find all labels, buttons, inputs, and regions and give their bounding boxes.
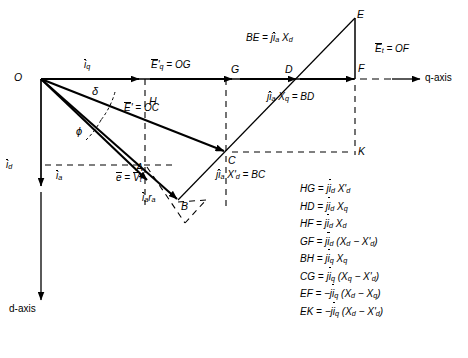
q-axis-label: q-axis [425, 73, 452, 83]
point-label-O: O [14, 72, 22, 83]
point-label-E: E [357, 9, 364, 20]
BE-label: BE = jia Xd [246, 33, 293, 43]
iq-vector-label: iq [84, 60, 90, 70]
equation-HF: HF = jid Xd [300, 215, 383, 233]
E-prime-vector [41, 79, 224, 151]
E-prime-OC-label: E' = OC [124, 103, 159, 113]
angle-label-phi: ϕ [76, 126, 82, 137]
ia-vector-label: ia [56, 171, 62, 181]
equation-HD: HD = jid Xq [300, 198, 383, 216]
point-label-B: B [181, 201, 188, 212]
terminal-voltage-label: e = Vt [116, 173, 142, 183]
Et-OF-label: Et = OF [375, 44, 409, 54]
point-label-D: D [285, 64, 293, 75]
point-label-A: A [136, 162, 143, 173]
equation-EK: EK = −jiq (Xd − X'd) [300, 303, 383, 321]
equation-EF: EF = −jiq (Xd − Xq) [300, 285, 383, 303]
point-label-G: G [231, 64, 239, 75]
d-axis-label: d-axis [9, 304, 36, 314]
angle-label-delta: δ [92, 86, 98, 97]
equation-BH: BH = jiq Xq [300, 250, 383, 268]
jiaXdp-BC-label: jia X'd = BC [216, 170, 265, 180]
id-vector-label: id [6, 160, 12, 170]
equation-list: HG = jid X'd HD = jid Xq HF = jid Xd GF … [300, 180, 383, 320]
equation-CG: CG = jiq (Xq − X'd) [300, 268, 383, 286]
ia-ra-label: iara [142, 193, 156, 203]
point-label-C: C [228, 155, 236, 166]
point-label-K: K [358, 146, 365, 157]
phasor-diagram-figure: O G H D E F K C B A δ ϕ q-axis d-axis iq… [0, 0, 468, 358]
jiaXq-BD-label: jia Xq = BD [267, 92, 314, 102]
Eq-prime-OG-label: E'q = OG [151, 60, 191, 70]
BE-line [178, 18, 355, 200]
point-label-F: F [358, 63, 364, 74]
equation-HG: HG = jid X'd [300, 180, 383, 198]
equation-GF: GF = jid (Xd − X'd) [300, 233, 383, 251]
